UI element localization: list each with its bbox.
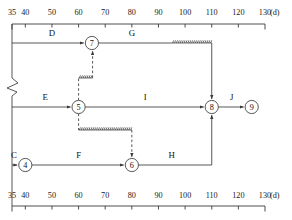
network-diagram-figure: 35405060708090100110120130 (d) 354050607… [0,0,292,220]
axis-tick-label: 90 [154,8,162,17]
node-4[interactable]: 4 [19,158,32,171]
activity-label-H: H [169,150,176,160]
axis-tick-label: 50 [48,191,56,200]
float-segment-5-7 [79,75,93,78]
axis-tick-label: 70 [101,8,109,17]
top-axis-unit-label: (d) [270,8,280,17]
bottom-axis: 35405060708090100110120130 (d) [8,191,280,212]
node-9[interactable]: 9 [245,100,258,113]
axis-tick-label: 90 [154,191,162,200]
activity-label-D: D [49,28,55,38]
float-segment-5-6 [79,127,132,130]
top-axis: 35405060708090100110120130 (d) [8,8,280,30]
bottom-axis-unit-label: (d) [270,191,280,200]
float-segments-layer [79,40,212,130]
float-hatching [79,75,92,78]
activity-label-C: C [11,150,17,160]
left-spine [7,24,18,206]
node-label-5: 5 [77,103,81,112]
axis-tick-label: 70 [101,191,109,200]
float-hatching [173,40,212,43]
bottom-axis-ticks [12,206,265,212]
axis-tick-label: 110 [206,191,218,200]
dummy-links-layer [79,51,132,157]
node-label-6: 6 [130,161,134,170]
node-label-9: 9 [250,103,254,112]
network-diagram-canvas: 35405060708090100110120130 (d) 354050607… [0,0,292,220]
node-6[interactable]: 6 [125,158,138,171]
axis-tick-label: 50 [48,8,56,17]
node-8[interactable]: 8 [205,100,218,113]
float-hatching [79,127,131,130]
axis-tick-label: 35 [8,8,16,17]
axis-tick-label: 100 [179,8,191,17]
top-axis-tick-labels: 35405060708090100110120130 [8,8,271,17]
axis-tick-label: 120 [232,8,244,17]
axis-tick-label: 60 [74,191,82,200]
axis-tick-label: 80 [128,191,136,200]
axis-tick-label: 120 [232,191,244,200]
axis-tick-label: 60 [74,8,82,17]
nodes-layer: 456789 [19,36,259,171]
node-label-4: 4 [23,161,27,170]
node-7[interactable]: 7 [85,36,98,49]
axis-tick-label: 40 [21,8,29,17]
activity-label-J: J [230,92,234,102]
activity-label-F: F [76,150,81,160]
axis-tick-label: 100 [179,191,191,200]
node-label-7: 7 [90,39,94,48]
activity-labels-layer: DGEIJCFH [11,28,234,160]
float-segment-G [172,40,212,43]
axis-tick-label: 80 [128,8,136,17]
node-5[interactable]: 5 [72,100,85,113]
axis-tick-label: 40 [21,191,29,200]
activity-label-G: G [129,28,136,38]
axis-tick-label: 110 [206,8,218,17]
activity-label-E: E [43,92,48,102]
node-label-8: 8 [210,103,214,112]
bottom-axis-tick-labels: 35405060708090100110120130 [8,191,271,200]
activity-label-I: I [144,92,147,102]
break-symbol [7,78,18,96]
